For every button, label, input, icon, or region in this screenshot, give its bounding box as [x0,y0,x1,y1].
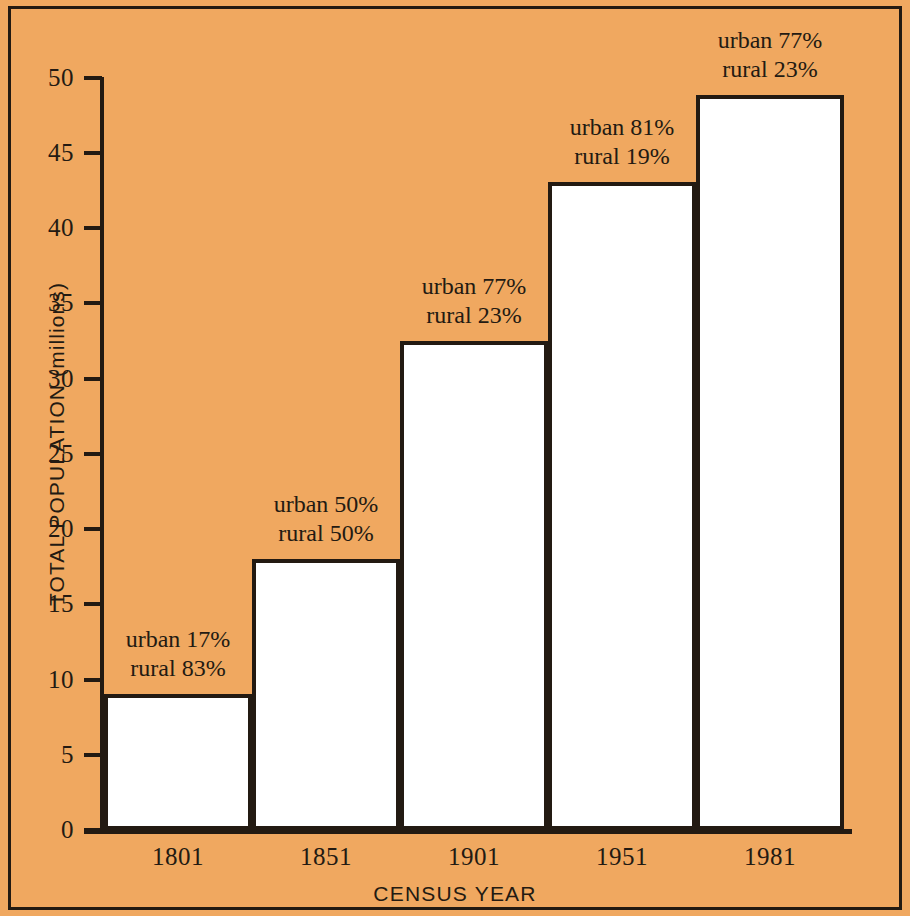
bar-annotation-1851-urban: urban 50% [248,490,404,519]
bar-annotation-1951-urban: urban 81% [544,113,700,142]
bar-annotation-1801: urban 17% rural 83% [104,625,252,684]
figure-root: 0 5 10 15 20 25 30 35 40 45 50 urban 17%… [0,0,910,916]
x-tick-label-1981: 1981 [696,843,844,871]
bar-annotation-1951-rural: rural 19% [544,142,700,171]
bar-1981 [696,95,844,830]
x-tick-label-1901: 1901 [400,843,548,871]
y-tick-45 [84,151,102,155]
y-tick-label-0: 0 [14,816,74,844]
y-tick-20 [84,527,102,531]
bar-annotation-1801-urban: urban 17% [104,625,252,654]
bar-1851 [252,559,400,830]
bar-annotation-1851-rural: rural 50% [248,519,404,548]
x-tick-label-1801: 1801 [104,843,252,871]
y-tick-30 [84,377,102,381]
bar-annotation-1981-rural: rural 23% [692,55,848,84]
bar-annotation-1901-rural: rural 23% [396,301,552,330]
bar-annotation-1951: urban 81% rural 19% [544,113,700,172]
plot-area: 0 5 10 15 20 25 30 35 40 45 50 urban 17%… [0,0,910,916]
bar-annotation-1901-urban: urban 77% [396,272,552,301]
bar-1801 [104,694,252,830]
x-tick-label-1851: 1851 [252,843,400,871]
bar-1951 [548,182,696,830]
x-tick-label-1951: 1951 [548,843,696,871]
bar-annotation-1851: urban 50% rural 50% [248,490,404,549]
y-tick-10 [84,678,102,682]
bar-annotation-1901: urban 77% rural 23% [396,272,552,331]
y-axis-title: TOTAL POPULATION (millions) [45,94,69,794]
bar-1901 [400,341,548,830]
y-tick-5 [84,753,102,757]
y-tick-25 [84,452,102,456]
bar-annotation-1981: urban 77% rural 23% [692,26,848,85]
x-axis-title: CENSUS YEAR [0,882,910,906]
y-tick-label-50: 50 [14,64,74,92]
y-tick-50 [84,76,102,80]
bar-annotation-1981-urban: urban 77% [692,26,848,55]
y-tick-0 [84,828,102,832]
bar-annotation-1801-rural: rural 83% [104,654,252,683]
y-tick-15 [84,602,102,606]
y-tick-40 [84,226,102,230]
y-tick-35 [84,301,102,305]
